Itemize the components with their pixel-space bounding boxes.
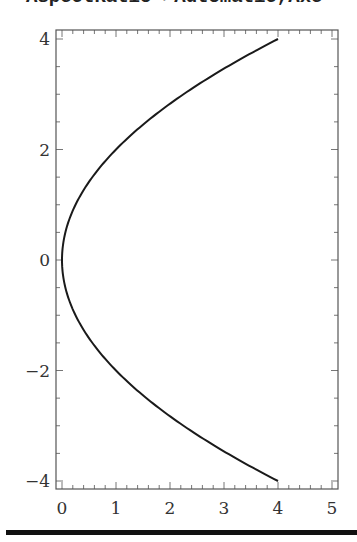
cell-divider [6,530,357,535]
y-tick-label: −2 [25,361,50,381]
y-tick-label: 0 [39,250,50,270]
parabola-curve [62,39,278,481]
y-tick-label: 4 [39,29,50,49]
x-tick-label: 5 [327,498,338,518]
plot-frame [56,30,338,489]
frame-ticks [56,30,338,489]
parametric-plot: 012345 −4−2024 [0,0,357,542]
y-tick-label: −4 [25,471,50,491]
x-tick-label: 2 [165,498,176,518]
y-tick-label: 2 [39,140,50,160]
x-tick-label: 4 [273,498,284,518]
x-tick-label: 0 [57,498,68,518]
x-tick-labels: 012345 [57,498,338,518]
y-tick-labels: −4−2024 [25,29,50,491]
x-tick-label: 3 [219,498,230,518]
x-tick-label: 1 [111,498,122,518]
